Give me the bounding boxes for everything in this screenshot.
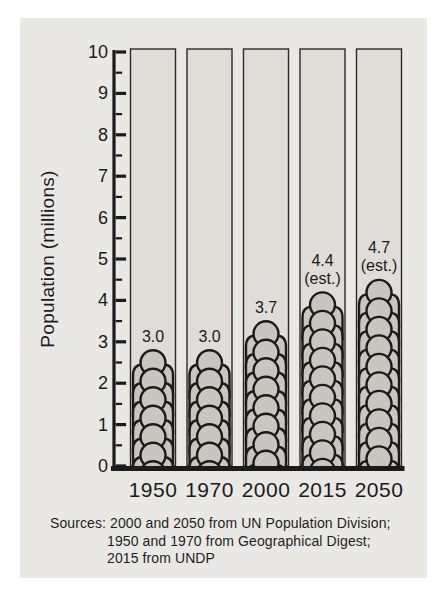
y-major-tick-9 (116, 92, 127, 95)
figure-page: 3.03.03.74.4(est.)4.7(est.)012345678910P… (0, 0, 446, 603)
x-tick-label-2015: 2015 (298, 478, 347, 501)
person-stack-2015 (303, 292, 343, 506)
y-major-tick-4 (116, 299, 127, 302)
y-minor-tick-6.5 (116, 196, 123, 198)
y-tick-label-6: 6 (98, 208, 108, 228)
y-major-tick-1 (116, 423, 127, 426)
x-baseline (111, 466, 405, 471)
y-major-tick-6 (116, 216, 127, 219)
value-label-2050: 4.7 (368, 239, 390, 256)
y-tick-label-2: 2 (98, 373, 108, 393)
sources-line-3: 2015 from UNDP (107, 550, 410, 568)
y-tick-label-10: 10 (88, 42, 108, 62)
y-major-tick-5 (116, 257, 127, 260)
person-head (254, 451, 279, 476)
value-label-1970: 3.0 (198, 328, 220, 345)
population-pictograph-chart: 3.03.03.74.4(est.)4.7(est.)012345678910P… (0, 0, 446, 603)
x-tick-label-1950: 1950 (129, 478, 178, 501)
y-major-tick-8 (116, 133, 127, 136)
y-tick-label-1: 1 (98, 415, 108, 435)
y-minor-tick-2.5 (116, 361, 123, 363)
y-major-tick-10 (116, 50, 127, 53)
person-stack-2000 (246, 321, 286, 498)
y-tick-label-7: 7 (98, 166, 108, 186)
y-tick-label-3: 3 (98, 332, 108, 352)
value-label-1950: 3.0 (142, 328, 164, 345)
y-tick-label-9: 9 (98, 83, 108, 103)
y-tick-label-4: 4 (98, 290, 108, 310)
sources-line-2: 1950 and 1970 from Geographical Digest; (107, 533, 410, 551)
y-minor-tick-5.5 (116, 237, 123, 239)
y-tick-label-0: 0 (98, 456, 108, 476)
y-minor-tick-1.5 (116, 403, 123, 405)
y-minor-tick-8.5 (116, 113, 123, 115)
y-major-tick-3 (116, 340, 127, 343)
y-tick-label-8: 8 (98, 125, 108, 145)
y-axis-line (112, 50, 115, 468)
value-label-2000: 3.7 (255, 299, 277, 316)
y-minor-tick-9.5 (116, 72, 123, 74)
estimate-label-2015: (est.) (304, 270, 340, 287)
y-minor-tick-0.5 (116, 444, 123, 446)
person-stack-2050 (359, 280, 399, 494)
y-minor-tick-3.5 (116, 320, 123, 322)
x-tick-label-2000: 2000 (242, 478, 291, 501)
x-tick-label-2050: 2050 (355, 478, 404, 501)
sources-note: Sources: 2000 and 2050 from UN Populatio… (50, 515, 410, 568)
y-minor-tick-7.5 (116, 154, 123, 156)
sources-line-1: Sources: 2000 and 2050 from UN Populatio… (50, 515, 410, 533)
x-tick-label-1970: 1970 (185, 478, 234, 501)
y-axis-title: Population (millions) (37, 170, 58, 347)
y-major-tick-7 (116, 175, 127, 178)
y-minor-tick-4.5 (116, 279, 123, 281)
value-label-2015: 4.4 (311, 252, 333, 269)
y-major-tick-2 (116, 382, 127, 385)
estimate-label-2050: (est.) (361, 257, 397, 274)
y-tick-label-5: 5 (98, 249, 108, 269)
